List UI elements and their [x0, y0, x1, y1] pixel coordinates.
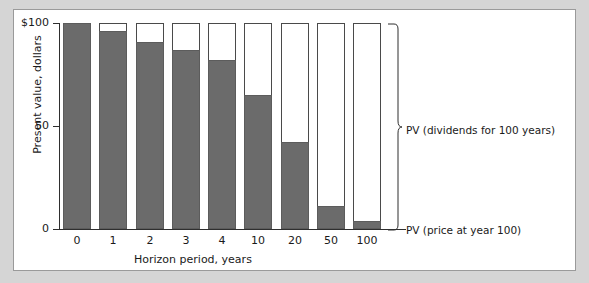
bar-segment-price	[136, 42, 164, 229]
bar-segment-price	[208, 60, 236, 229]
y-axis-tick-label: $100	[14, 16, 49, 29]
bar-segment-price	[244, 95, 272, 229]
x-axis-tick-label: 100	[353, 234, 381, 247]
x-axis-tick-label: 3	[172, 234, 200, 247]
y-axis-tick-mark	[53, 126, 59, 127]
x-axis-tick-label: 2	[136, 234, 164, 247]
plot-area	[63, 23, 381, 229]
price-leader-line	[381, 229, 406, 230]
x-axis-tick-label: 50	[317, 234, 345, 247]
legend-label-dividends: PV (dividends for 100 years)	[406, 124, 555, 136]
x-axis-tick-label: 0	[63, 234, 91, 247]
y-axis-tick-label: 0	[14, 222, 49, 235]
bar-segment-price	[99, 31, 127, 229]
bar-column[interactable]	[244, 23, 272, 229]
dividends-brace-icon	[386, 23, 402, 231]
x-axis-tick-label: 1	[99, 234, 127, 247]
bar-segment-price	[353, 221, 381, 229]
bar-column[interactable]	[317, 23, 345, 229]
bar-column[interactable]	[63, 23, 91, 229]
x-axis-title: Horizon period, years	[134, 253, 252, 266]
y-axis-title: Present value, dollars	[31, 25, 44, 165]
bar-column[interactable]	[172, 23, 200, 229]
y-axis-tick-mark	[53, 229, 59, 230]
x-axis-line	[58, 229, 388, 230]
bar-column[interactable]	[281, 23, 309, 229]
x-axis-tick-label: 4	[208, 234, 236, 247]
bar-column[interactable]	[136, 23, 164, 229]
bar-segment-price	[317, 206, 345, 229]
y-axis-tick-mark	[53, 23, 59, 24]
chart-panel: Present value, dollars Horizon period, y…	[13, 9, 576, 271]
x-axis-tick-label: 10	[244, 234, 272, 247]
bar-column[interactable]	[353, 23, 381, 229]
bar-segment-price	[281, 142, 309, 229]
bar-segment-dividends	[317, 23, 345, 229]
legend-label-price: PV (price at year 100)	[406, 224, 521, 236]
bar-segment-price	[63, 23, 91, 229]
bar-column[interactable]	[99, 23, 127, 229]
x-axis-tick-label: 20	[281, 234, 309, 247]
y-axis-tick-label: 50	[14, 119, 49, 132]
bar-column[interactable]	[208, 23, 236, 229]
bar-segment-dividends	[353, 23, 381, 229]
y-axis-line	[59, 23, 60, 230]
bar-segment-price	[172, 50, 200, 229]
